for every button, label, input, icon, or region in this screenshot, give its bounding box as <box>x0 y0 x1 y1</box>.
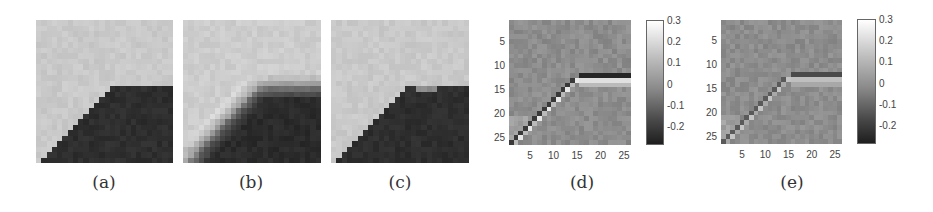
panel-b-image <box>183 20 321 163</box>
x-tick-label: 25 <box>614 151 634 161</box>
panel-e-caption: (e) <box>762 172 822 192</box>
x-tick-label: 10 <box>755 150 775 160</box>
colorbar-tick-label: 0.3 <box>667 16 681 26</box>
colorbar-tick-label: -0.1 <box>667 101 684 111</box>
colorbar-tick-label: -0.2 <box>879 121 896 131</box>
panel-d-colorbar <box>646 20 664 145</box>
panel-e-colorbar <box>857 19 876 144</box>
panel-c-image <box>331 20 469 163</box>
y-tick-label: 15 <box>485 85 505 95</box>
x-tick-label: 5 <box>520 151 540 161</box>
y-tick-label: 10 <box>697 60 717 70</box>
y-tick-label: 25 <box>485 133 505 143</box>
colorbar-tick-label: 0.2 <box>879 36 893 46</box>
x-tick-label: 5 <box>732 150 752 160</box>
y-tick-label: 20 <box>697 108 717 118</box>
x-tick-label: 20 <box>802 150 822 160</box>
colorbar-tick-label: 0.1 <box>879 57 893 67</box>
panel-b-caption: (b) <box>221 172 281 192</box>
y-tick-label: 5 <box>697 36 717 46</box>
colorbar-tick-label: 0.3 <box>879 15 893 25</box>
colorbar-tick-label: 0.2 <box>667 37 681 47</box>
colorbar-tick-label: 0 <box>879 79 885 89</box>
panel-a-image <box>36 20 173 163</box>
x-tick-label: 15 <box>778 150 798 160</box>
panel-e-heatmap <box>721 20 842 144</box>
y-tick-label: 5 <box>485 37 505 47</box>
x-tick-label: 15 <box>567 151 587 161</box>
x-tick-label: 20 <box>591 151 611 161</box>
colorbar-tick-label: -0.2 <box>667 122 684 132</box>
y-tick-label: 15 <box>697 84 717 94</box>
panel-c-caption: (c) <box>370 172 430 192</box>
x-tick-label: 10 <box>544 151 564 161</box>
y-tick-label: 10 <box>485 61 505 71</box>
colorbar-tick-label: 0.1 <box>667 58 681 68</box>
y-tick-label: 20 <box>485 109 505 119</box>
colorbar-tick-label: 0 <box>667 80 673 90</box>
x-tick-label: 25 <box>825 150 845 160</box>
panel-d-caption: (d) <box>552 172 612 192</box>
panel-d-heatmap <box>509 20 631 145</box>
panel-a-caption: (a) <box>74 172 134 192</box>
y-tick-label: 25 <box>697 132 717 142</box>
colorbar-tick-label: -0.1 <box>879 100 896 110</box>
